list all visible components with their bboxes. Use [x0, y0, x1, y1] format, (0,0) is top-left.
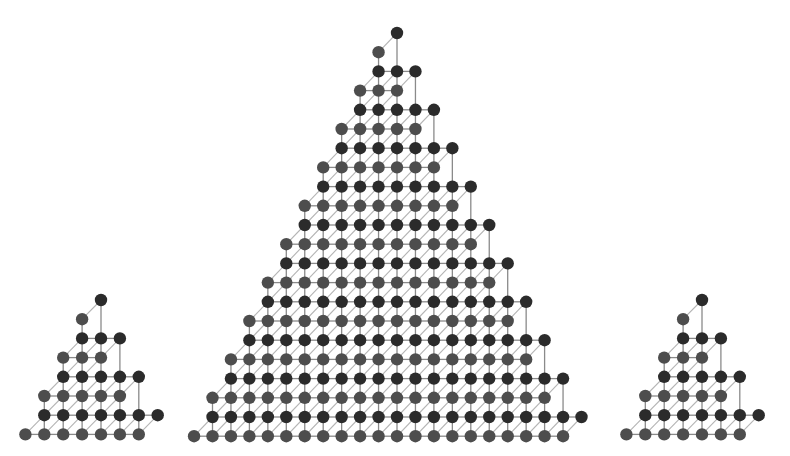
lattice-node — [354, 142, 366, 154]
lattice-node — [520, 353, 532, 365]
lattice-node — [520, 296, 532, 308]
lattice-node — [391, 296, 403, 308]
lattice-node — [391, 180, 403, 192]
lattice-node — [502, 353, 514, 365]
lattice-node — [658, 409, 670, 421]
lattice-node — [620, 428, 632, 440]
lattice-node — [299, 372, 311, 384]
lattice-node — [428, 353, 440, 365]
lattice-node — [354, 180, 366, 192]
lattice-node — [409, 276, 421, 288]
lattice-node — [391, 200, 403, 212]
lattice-node — [465, 219, 477, 231]
lattice-node — [428, 392, 440, 404]
lattice-node — [715, 390, 727, 402]
lattice-node — [280, 353, 292, 365]
lattice-node — [299, 353, 311, 365]
lattice-node — [502, 315, 514, 327]
lattice-node — [262, 315, 274, 327]
lattice-node — [391, 142, 403, 154]
lattice-node — [188, 430, 200, 442]
lattice-node — [658, 371, 670, 383]
lattice-node — [391, 161, 403, 173]
lattice-node — [299, 411, 311, 423]
lattice-node — [428, 180, 440, 192]
lattice-node — [372, 276, 384, 288]
lattice-node — [335, 276, 347, 288]
lattice-node — [243, 392, 255, 404]
lattice-node — [19, 428, 31, 440]
lattice-node — [299, 296, 311, 308]
lattice-node — [299, 219, 311, 231]
lattice-node — [95, 351, 107, 363]
lattice-node — [262, 353, 274, 365]
lattice-node — [372, 161, 384, 173]
lattice-node — [335, 161, 347, 173]
lattice-node — [409, 219, 421, 231]
lattice-node — [114, 409, 126, 421]
lattice-node — [354, 353, 366, 365]
lattice-node — [465, 411, 477, 423]
lattice-node — [372, 353, 384, 365]
lattice-node — [483, 392, 495, 404]
lattice-node — [372, 142, 384, 154]
lattice-node — [262, 334, 274, 346]
lattice-node — [243, 430, 255, 442]
lattice-node — [391, 411, 403, 423]
triangle-lattice-large-center — [188, 27, 588, 443]
lattice-node — [446, 219, 458, 231]
lattice-node — [715, 409, 727, 421]
lattice-node — [391, 334, 403, 346]
lattice-node — [335, 353, 347, 365]
lattice-node — [446, 334, 458, 346]
lattice-node — [696, 428, 708, 440]
lattice-node — [317, 219, 329, 231]
lattice-node — [734, 409, 746, 421]
lattice-node — [95, 332, 107, 344]
lattice-node — [391, 104, 403, 116]
lattice-node — [502, 430, 514, 442]
lattice-node — [520, 372, 532, 384]
lattice-node — [372, 104, 384, 116]
lattice-node — [677, 351, 689, 363]
lattice-node — [409, 142, 421, 154]
lattice-node — [428, 276, 440, 288]
lattice-node — [409, 315, 421, 327]
lattice-node — [409, 392, 421, 404]
lattice-node — [538, 372, 550, 384]
lattice-node — [428, 411, 440, 423]
lattice-node — [299, 334, 311, 346]
lattice-node — [280, 276, 292, 288]
lattice-node — [372, 372, 384, 384]
lattice-node — [114, 428, 126, 440]
lattice-node — [57, 428, 69, 440]
lattice-node — [354, 276, 366, 288]
lattice-node — [317, 296, 329, 308]
lattice-node — [76, 332, 88, 344]
lattice-node — [465, 296, 477, 308]
lattice-node — [114, 390, 126, 402]
lattice-node — [243, 315, 255, 327]
lattice-node — [409, 180, 421, 192]
lattice-node — [335, 257, 347, 269]
lattice-node — [299, 238, 311, 250]
lattice-node — [677, 390, 689, 402]
lattice-node — [502, 296, 514, 308]
triangle-lattice-small-left — [19, 294, 164, 441]
lattice-node — [225, 392, 237, 404]
lattice-node — [57, 409, 69, 421]
lattice-node — [133, 371, 145, 383]
lattice-node — [409, 372, 421, 384]
lattice-node — [372, 315, 384, 327]
lattice-node — [483, 276, 495, 288]
lattice-node — [372, 65, 384, 77]
lattice-node — [243, 411, 255, 423]
lattice-node — [95, 409, 107, 421]
lattice-node — [317, 353, 329, 365]
lattice-node — [299, 430, 311, 442]
lattice-node — [465, 257, 477, 269]
lattice-node — [354, 238, 366, 250]
lattice-node — [520, 392, 532, 404]
lattice-node — [658, 351, 670, 363]
lattice-node — [557, 372, 569, 384]
